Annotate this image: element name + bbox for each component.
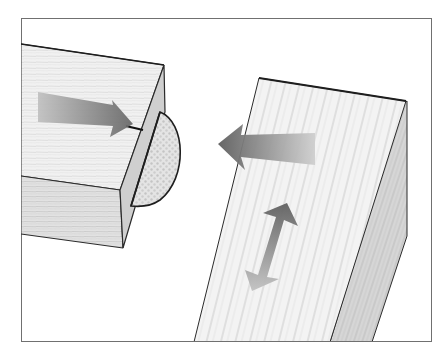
biscuit-joint-illustration: Biscuit joint illustration: a board end … (0, 0, 444, 362)
